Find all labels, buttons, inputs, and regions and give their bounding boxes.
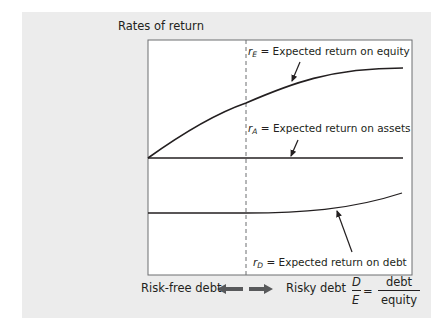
rE-annotation: rE = Expected return on equity — [248, 45, 410, 59]
fraction-bar-de — [352, 290, 361, 291]
fraction-d: D — [352, 275, 361, 289]
x-axis-label-risky: Risky debt — [286, 281, 346, 295]
equals-sign: = — [363, 284, 373, 298]
fraction-e: E — [352, 293, 359, 307]
x-axis-label-risk-free: Risk-free debt — [141, 281, 222, 295]
fraction-denominator-equity: equity — [377, 293, 421, 307]
rA-annotation: rA = Expected return on assets — [248, 122, 411, 136]
rD-annotation: rD = Expected return on debt — [253, 256, 407, 270]
fraction-numerator-debt: debt — [377, 275, 421, 289]
right-arrow-icon — [249, 284, 273, 294]
fraction-bar-debt-equity — [378, 290, 420, 291]
